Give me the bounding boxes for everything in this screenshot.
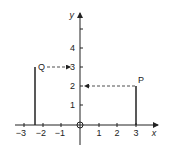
x-tick-label: 1 [96, 128, 101, 138]
point-q-label: Q [38, 62, 45, 72]
y-axis-label: y [69, 10, 75, 20]
y-tick-label: 2 [70, 81, 75, 91]
y-tick-label: 4 [70, 43, 75, 53]
point-q: Q [35, 62, 70, 125]
coordinate-diagram: −3 −2 −1 1 2 3 x 1 2 3 4 y Q P [0, 0, 169, 147]
x-axis: −3 −2 −1 1 2 3 x [15, 123, 158, 138]
point-p: P [85, 75, 144, 125]
x-tick-label: −3 [16, 128, 26, 138]
x-tick-label: −1 [55, 128, 65, 138]
y-tick-label: 1 [70, 100, 75, 110]
point-p-label: P [138, 75, 144, 85]
x-axis-label: x [151, 128, 157, 138]
x-tick-label: 3 [133, 128, 138, 138]
y-tick-label: 3 [70, 62, 75, 72]
x-tick-label: −2 [36, 128, 46, 138]
x-tick-label: 2 [114, 128, 119, 138]
